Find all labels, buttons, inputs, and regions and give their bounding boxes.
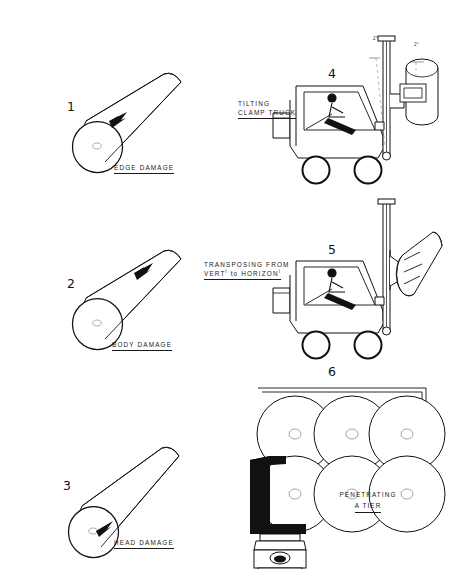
truck-front-icon bbox=[252, 534, 308, 569]
panel-number-5: 5 bbox=[328, 242, 336, 257]
tilt-angle-left: 2° bbox=[373, 36, 378, 41]
panel-number-1: 1 bbox=[67, 99, 75, 114]
caption-transposing: TRANSPOSING FROM VERTl to HORIZONl bbox=[204, 260, 290, 280]
caption-body-damage: BODY DAMAGE bbox=[112, 340, 172, 351]
panel-number-4: 4 bbox=[328, 66, 336, 81]
operator-figure-icon bbox=[327, 93, 336, 102]
panel-head-damage: 3 HEAD DAMAGE bbox=[44, 443, 209, 561]
panel-tilting-clamp-truck: 4 TILTING CLAMP TRUCK 2° 2° bbox=[228, 18, 448, 183]
panel-number-2: 2 bbox=[67, 276, 75, 291]
caption-tilting-clamp-truck: TILTING CLAMP TRUCK bbox=[238, 99, 296, 119]
tilt-angle-right: 2° bbox=[414, 42, 419, 47]
roll-cylinder-icon bbox=[48, 58, 208, 178]
panel-penetrating-tier: 6 PENETRATING A TIER bbox=[248, 378, 440, 558]
panel-edge-damage: 1 EDGE DAMAGE bbox=[48, 58, 208, 178]
roll-cylinder-icon bbox=[48, 235, 208, 355]
panel-number-3: 3 bbox=[63, 478, 71, 493]
panel-body-damage: 2 BODY DAMAGE bbox=[48, 235, 208, 355]
caption-edge-damage: EDGE DAMAGE bbox=[114, 163, 174, 174]
caption-penetrating-tier: PENETRATING A TIER bbox=[308, 490, 428, 513]
caption-head-damage: HEAD DAMAGE bbox=[114, 538, 174, 549]
roll-tier-icon bbox=[248, 378, 440, 558]
panel-transposing: 5 TRANSPOSING FROM VERTl to HORIZONl bbox=[228, 198, 448, 348]
panel-number-6: 6 bbox=[328, 364, 336, 379]
operator-figure-icon bbox=[327, 268, 336, 277]
illustration-sheet: 1 EDGE DAMAGE 2 BODY DAMAGE bbox=[0, 0, 449, 569]
